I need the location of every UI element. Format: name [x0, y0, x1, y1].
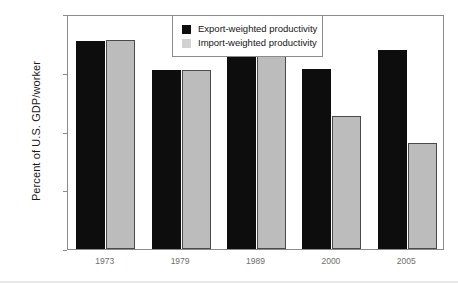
bar-import-2005: [408, 143, 437, 249]
y-tick-mark: [63, 250, 67, 251]
chart-legend: Export-weighted productivity Import-weig…: [172, 15, 323, 57]
bar-export-1989: [227, 57, 256, 249]
black-square-icon: [182, 25, 191, 34]
legend-item-export: Export-weighted productivity: [182, 22, 314, 36]
x-tick-label-2005: 2005: [369, 256, 444, 266]
bar-export-2005: [378, 50, 407, 249]
bar-import-2000: [332, 116, 361, 249]
gray-square-icon: [182, 39, 191, 48]
bar-import-1973: [106, 40, 135, 249]
legend-label-export: Export-weighted productivity: [198, 23, 317, 35]
x-tick-label-1973: 1973: [67, 256, 142, 266]
bar-import-1989: [257, 55, 286, 249]
bar-export-2000: [302, 69, 331, 249]
bar-export-1979: [152, 70, 181, 249]
x-tick-label-1979: 1979: [142, 256, 217, 266]
legend-label-import: Import-weighted productivity: [198, 37, 317, 49]
bar-chart-figure: Percent of U.S. GDP/worker 60%55%50%45%4…: [0, 0, 458, 283]
bar-group-1973: [76, 16, 135, 249]
bar-import-1979: [182, 70, 211, 249]
x-tick-label-2000: 2000: [293, 256, 368, 266]
x-tick-label-1989: 1989: [218, 256, 293, 266]
legend-item-import: Import-weighted productivity: [182, 36, 314, 50]
y-axis-title: Percent of U.S. GDP/worker: [30, 21, 42, 241]
bar-export-1973: [76, 41, 105, 249]
bar-group-2005: [378, 16, 437, 249]
